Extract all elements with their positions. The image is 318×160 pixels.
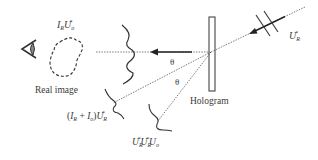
reference-arrow-head-icon: [249, 28, 258, 34]
label-part: R: [103, 116, 107, 122]
label-part: +: [77, 111, 87, 121]
label-part: *: [69, 19, 72, 25]
label-part: o: [156, 142, 159, 148]
label-part: *: [295, 30, 298, 36]
label-part: U: [149, 137, 156, 147]
object-label: IRUo*: [57, 19, 72, 31]
hologram-plate: [209, 17, 215, 91]
twin-image-dotted: [158, 52, 211, 121]
twin-image-label: UR*UR*Uo: [132, 136, 159, 148]
eye-icon: [22, 40, 36, 58]
zero-order-wavefront: [105, 89, 124, 119]
label-part: o: [71, 25, 74, 31]
arrow-head-icon: [150, 49, 158, 56]
theta-label-2: θ: [175, 78, 179, 87]
real-image-outline: [50, 38, 82, 76]
label-part: *: [102, 110, 105, 116]
real-image-label: Real image: [35, 86, 78, 96]
label-part: R: [296, 36, 300, 42]
hologram-reconstruction-diagram: [0, 0, 318, 160]
twin-image-wavefront: [149, 104, 172, 131]
theta-label-1: θ: [170, 58, 174, 67]
hologram-label: Hologram: [190, 97, 229, 107]
real-image-wavefront: [122, 25, 134, 84]
reference-beam-label: UR*: [289, 30, 298, 42]
zero-order-label: (IR + Io)UR*: [67, 110, 105, 122]
